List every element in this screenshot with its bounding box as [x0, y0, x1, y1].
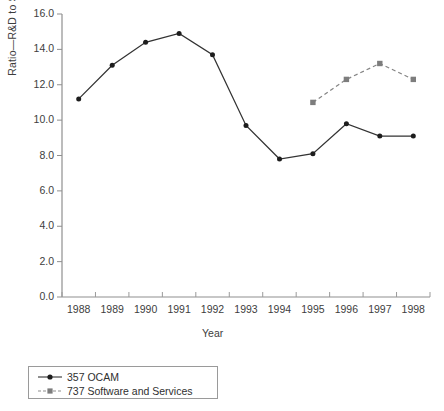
chart-figure: Ratio—R&D to Sales Year 0.02.04.06.08.01…: [0, 0, 444, 411]
x-axis-title: Year: [202, 327, 223, 339]
data-point-marker: [110, 63, 115, 68]
legend-item-series-1[interactable]: 357 OCAM: [37, 370, 119, 384]
y-tick-label: 12.0: [10, 78, 54, 90]
plot-area: [0, 0, 444, 411]
square-marker-icon: [37, 385, 63, 397]
y-tick-marks: [57, 14, 62, 297]
data-point-marker: [310, 151, 315, 156]
data-point-marker: [143, 40, 148, 45]
x-tick-marks: [62, 292, 430, 297]
data-point-marker: [244, 123, 249, 128]
data-point-marker: [76, 96, 81, 101]
y-tick-label: 4.0: [10, 219, 54, 231]
y-tick-label: 10.0: [10, 113, 54, 125]
y-tick-label: 2.0: [10, 255, 54, 267]
y-tick-label: 16.0: [10, 7, 54, 19]
data-point-marker: [177, 31, 182, 36]
legend: 357 OCAM 737 Software and Services: [28, 366, 218, 399]
series-line: [313, 64, 413, 103]
legend-item-series-2[interactable]: 737 Software and Services: [37, 384, 193, 398]
y-tick-label: 14.0: [10, 42, 54, 54]
data-point-marker: [411, 77, 416, 82]
data-point-marker: [377, 61, 382, 66]
data-point-marker: [377, 134, 382, 139]
x-tick-label: 1998: [393, 303, 433, 315]
data-series-layer: [76, 31, 416, 162]
y-tick-label: 6.0: [10, 184, 54, 196]
legend-label-series-1: 357 OCAM: [63, 371, 119, 383]
data-point-marker: [310, 100, 315, 105]
data-point-marker: [344, 77, 349, 82]
data-point-marker: [210, 52, 215, 57]
data-point-marker: [344, 121, 349, 126]
circle-marker-icon: [37, 371, 63, 383]
y-tick-label: 0.0: [10, 290, 54, 302]
data-point-marker: [411, 134, 416, 139]
y-tick-label: 8.0: [10, 149, 54, 161]
series-line: [79, 34, 414, 160]
data-point-marker: [277, 157, 282, 162]
legend-label-series-2: 737 Software and Services: [63, 385, 193, 397]
